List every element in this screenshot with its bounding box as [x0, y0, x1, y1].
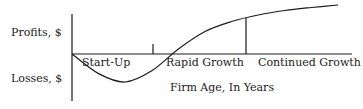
- y-label-losses: Losses, $: [11, 72, 62, 85]
- profit-curve: [72, 5, 338, 82]
- stage-label-continued-growth: Continued Growth: [258, 56, 361, 69]
- stage-label-start-up: Start-Up: [82, 56, 130, 69]
- x-axis-label: Firm Age, In Years: [170, 81, 274, 94]
- y-label-profits: Profits, $: [11, 26, 62, 39]
- stage-label-rapid-growth: Rapid Growth: [166, 56, 244, 69]
